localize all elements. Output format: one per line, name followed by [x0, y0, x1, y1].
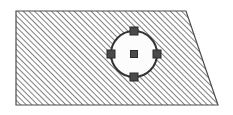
- handle-right[interactable]: [153, 50, 161, 58]
- handle-left[interactable]: [107, 50, 115, 58]
- handle-top[interactable]: [130, 27, 138, 35]
- figure-svg: [0, 0, 233, 115]
- drawing-canvas[interactable]: [0, 0, 233, 115]
- handle-bottom[interactable]: [130, 73, 138, 81]
- handle-center[interactable]: [131, 51, 138, 58]
